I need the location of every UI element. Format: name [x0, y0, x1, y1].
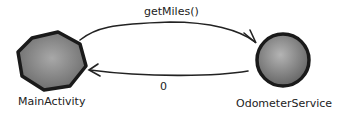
request-arrow	[80, 22, 256, 43]
edge-label-getmiles: getMiles()	[144, 5, 199, 18]
response-arrow	[89, 64, 248, 76]
hexagon-node-icon	[18, 32, 86, 90]
circle-node-icon	[257, 34, 309, 86]
node-label-odometerservice: OdometerService	[236, 97, 332, 110]
node-label-mainactivity: MainActivity	[18, 95, 85, 108]
edge-label-return-value: 0	[160, 80, 167, 93]
